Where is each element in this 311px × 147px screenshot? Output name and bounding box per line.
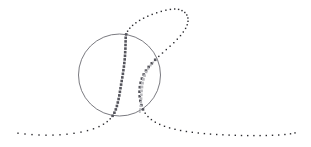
data-point	[111, 115, 114, 118]
data-point	[139, 108, 141, 110]
data-point	[141, 86, 144, 89]
data-point	[184, 12, 185, 13]
data-point	[24, 133, 25, 134]
data-point	[80, 131, 81, 132]
data-point	[266, 135, 267, 136]
data-point	[119, 87, 122, 90]
data-point	[187, 24, 188, 25]
data-point	[117, 101, 120, 104]
data-point	[192, 132, 193, 133]
data-point	[98, 126, 99, 127]
data-point	[140, 90, 143, 93]
data-point	[147, 116, 148, 117]
data-point	[173, 42, 174, 43]
data-point	[140, 93, 143, 96]
data-point	[103, 124, 104, 125]
data-point	[59, 134, 60, 135]
data-point	[154, 59, 157, 62]
data-point	[151, 119, 152, 120]
data-point	[278, 134, 279, 135]
data-point	[121, 76, 124, 79]
data-point	[187, 17, 188, 18]
data-point	[187, 21, 188, 22]
data-point	[107, 121, 108, 122]
data-point	[177, 39, 178, 40]
data-point	[180, 130, 181, 131]
data-point	[150, 64, 152, 66]
data-point	[272, 135, 273, 136]
data-point	[178, 9, 179, 10]
data-point	[241, 135, 242, 136]
data-point	[156, 12, 157, 13]
data-point	[135, 22, 136, 23]
data-point	[127, 31, 128, 32]
data-point	[115, 108, 118, 111]
data-point	[165, 10, 166, 11]
figure-background	[0, 0, 311, 147]
data-point	[52, 134, 53, 135]
data-point	[169, 127, 170, 128]
data-point	[17, 133, 18, 134]
data-point	[174, 8, 175, 9]
data-point	[117, 98, 120, 101]
trajectory-diagram	[0, 0, 311, 147]
data-point	[122, 69, 125, 72]
data-point	[124, 37, 127, 40]
data-point	[222, 134, 223, 135]
data-point	[186, 14, 187, 15]
data-point	[140, 97, 143, 100]
data-point	[143, 18, 144, 19]
data-point	[147, 16, 148, 17]
data-point	[228, 134, 229, 135]
data-point	[124, 44, 127, 47]
data-point	[170, 9, 171, 10]
data-point	[290, 133, 291, 134]
data-point	[253, 135, 254, 136]
data-point	[66, 134, 67, 135]
data-point	[118, 94, 121, 97]
data-point	[124, 55, 127, 58]
data-point	[73, 133, 74, 134]
data-point	[125, 33, 128, 36]
data-point	[216, 134, 217, 135]
data-point	[174, 129, 175, 130]
data-point	[161, 11, 162, 12]
data-point	[139, 111, 141, 113]
data-point	[139, 20, 140, 21]
data-point	[119, 91, 122, 94]
data-point	[181, 10, 182, 11]
data-point	[120, 80, 123, 83]
data-point	[198, 132, 199, 133]
data-point	[164, 126, 165, 127]
data-point	[158, 56, 159, 57]
data-point	[120, 83, 123, 86]
data-point	[93, 128, 94, 129]
data-point	[122, 73, 125, 76]
figure-container	[0, 0, 311, 147]
data-point	[183, 31, 184, 32]
data-point	[166, 49, 167, 50]
data-point	[139, 105, 141, 107]
data-point	[140, 101, 142, 103]
data-point	[185, 28, 186, 29]
data-point	[210, 133, 211, 134]
data-point	[116, 105, 119, 108]
data-point	[129, 28, 130, 29]
data-point	[294, 132, 295, 133]
data-point	[284, 134, 285, 135]
data-point	[141, 82, 144, 85]
data-point	[152, 14, 153, 15]
data-point	[123, 62, 126, 65]
data-point	[124, 40, 127, 43]
data-point	[145, 71, 147, 73]
data-point	[162, 52, 163, 53]
data-point	[259, 135, 260, 136]
data-point	[155, 122, 156, 123]
data-point	[145, 113, 146, 114]
data-point	[180, 35, 181, 36]
data-point	[142, 78, 145, 81]
data-point	[152, 62, 154, 64]
data-point	[45, 135, 46, 136]
data-point	[235, 135, 236, 136]
data-point	[247, 135, 248, 136]
